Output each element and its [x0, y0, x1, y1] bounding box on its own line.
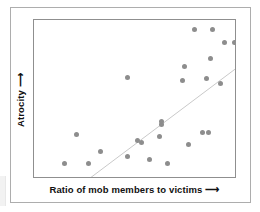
data-point — [74, 132, 79, 137]
y-axis-label-text: Atrocity — [15, 90, 26, 127]
data-point — [192, 27, 197, 32]
data-point — [222, 40, 227, 45]
x-axis-label-text: Ratio of mob members to victims — [49, 184, 202, 195]
data-points-layer — [34, 20, 235, 177]
y-axis-label: Atrocity⟶ — [15, 73, 26, 127]
scatter-plot-figure: Ratio of mob members to victims⟶ Atrocit… — [0, 0, 260, 212]
plot-area-frame — [33, 19, 236, 178]
data-point — [165, 161, 170, 166]
data-point — [98, 149, 103, 154]
data-point — [62, 161, 67, 166]
data-point — [139, 140, 144, 145]
data-point — [208, 56, 213, 61]
data-point — [186, 142, 191, 147]
y-axis-arrow-icon: ⟶ — [15, 73, 26, 87]
x-axis-arrow-icon: ⟶ — [205, 184, 219, 195]
data-point — [86, 161, 91, 166]
data-point — [206, 130, 211, 135]
data-point — [210, 27, 215, 32]
data-point — [180, 78, 185, 83]
data-point — [204, 76, 209, 81]
data-point — [182, 64, 187, 69]
data-point — [125, 75, 130, 80]
y-axis-label-container: Atrocity⟶ — [12, 40, 28, 160]
data-point — [125, 154, 130, 159]
data-point — [200, 130, 205, 135]
data-point — [218, 81, 223, 86]
x-axis-label: Ratio of mob members to victims⟶ — [33, 184, 236, 195]
page-edge-artifact — [0, 176, 6, 206]
data-point — [147, 157, 152, 162]
data-point — [157, 134, 162, 139]
data-point — [232, 40, 236, 45]
